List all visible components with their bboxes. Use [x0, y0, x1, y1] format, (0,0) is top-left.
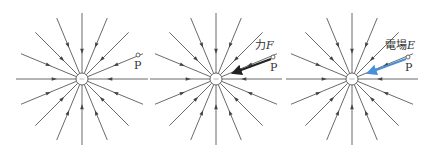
field-direction-arrow	[199, 110, 203, 116]
field-direction-arrow	[365, 110, 369, 116]
panel-1	[16, 13, 148, 145]
field-direction-arrow	[229, 110, 233, 116]
field-direction-arrow	[80, 104, 84, 109]
field-direction-arrow	[315, 92, 321, 96]
field-diagram-canvas	[0, 0, 428, 156]
field-direction-arrow	[186, 77, 191, 81]
field-label-symbol: E	[407, 39, 415, 52]
field-direction-arrow	[214, 104, 218, 109]
field-direction-arrow	[247, 92, 253, 96]
field-direction-arrow	[65, 110, 69, 116]
field-direction-arrow	[45, 92, 51, 96]
panel-2	[150, 13, 282, 145]
field-direction-arrow	[65, 42, 69, 48]
force-arrow	[233, 59, 271, 73]
panel-3-point-label: P	[405, 62, 412, 73]
field-direction-arrow	[52, 77, 57, 81]
field-direction-arrow	[95, 110, 99, 116]
panel-1-point-label: P	[134, 60, 141, 71]
field-direction-arrow	[107, 77, 112, 81]
field-direction-arrow	[45, 62, 51, 66]
force-label-symbol: F	[266, 39, 274, 52]
field-direction-arrow	[179, 92, 185, 96]
point-p-marker	[136, 53, 140, 57]
field-direction-arrow	[229, 42, 233, 48]
point-p-marker	[406, 55, 410, 59]
field-direction-arrow	[383, 92, 389, 96]
electric-field-arrow	[368, 59, 406, 73]
field-direction-arrow	[80, 49, 84, 54]
panel-2-force-label: 力F	[255, 40, 274, 51]
force-label-prefix: 力	[255, 39, 266, 52]
point-p-marker	[271, 55, 275, 59]
panel-2-point-label: P	[270, 62, 277, 73]
field-direction-arrow	[322, 77, 327, 81]
field-direction-arrow	[335, 42, 339, 48]
field-direction-arrow	[113, 92, 119, 96]
panel-3-field-label: 電場E	[385, 40, 415, 51]
field-direction-arrow	[365, 42, 369, 48]
field-direction-arrow	[335, 110, 339, 116]
electric-field-diagram: P 力F P 電場E P	[0, 0, 428, 156]
field-direction-arrow	[377, 77, 382, 81]
field-direction-arrow	[214, 49, 218, 54]
panel-3	[286, 13, 418, 145]
field-direction-arrow	[241, 77, 246, 81]
field-direction-arrow	[350, 104, 354, 109]
field-direction-arrow	[179, 62, 185, 66]
field-label-prefix: 電場	[385, 39, 407, 52]
field-direction-arrow	[95, 42, 99, 48]
field-direction-arrow	[315, 62, 321, 66]
field-direction-arrow	[113, 62, 119, 66]
field-direction-arrow	[350, 49, 354, 54]
field-direction-arrow	[199, 42, 203, 48]
